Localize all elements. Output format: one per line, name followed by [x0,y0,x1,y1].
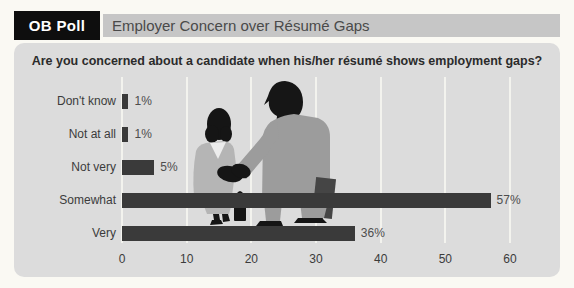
x-tick-label: 30 [299,252,333,266]
x-tick-label: 0 [105,252,139,266]
ob-poll-infographic: Employer Concern over Résumé Gaps OB Pol… [0,0,574,288]
x-axis: 0102030405060 [14,43,560,277]
header-title: Employer Concern over Résumé Gaps [112,14,370,37]
x-tick-label: 10 [170,252,204,266]
bar-chart: Don't know1%Not at all1%Not very5%Somewh… [14,43,560,277]
x-tick-label: 20 [234,252,268,266]
chart-panel: Are you concerned about a candidate when… [14,43,560,277]
ob-poll-badge: OB Poll [14,11,100,40]
x-tick-label: 50 [428,252,462,266]
header-strip: Employer Concern over Résumé Gaps [103,14,560,37]
x-tick-label: 60 [493,252,527,266]
x-tick-label: 40 [364,252,398,266]
